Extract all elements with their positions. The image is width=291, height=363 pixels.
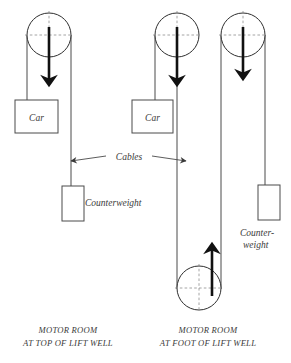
lift-traction-diagram: Car Counterweight Cables: [0, 0, 291, 363]
captions-group: MOTOR ROOM AT TOP OF LIFT WELL MOTOR ROO…: [22, 325, 256, 348]
right-counterweight-label-line1: Counter-: [240, 228, 274, 238]
cables-left-leader-arrow-icon: [71, 156, 106, 161]
right-counterweight-box: [258, 185, 280, 220]
cables-right-leader-arrow-icon: [152, 156, 186, 161]
left-caption-line2: AT TOP OF LIFT WELL: [22, 338, 113, 348]
left-diagram-group: Car Counterweight: [15, 11, 142, 221]
left-counterweight-box: [62, 186, 84, 221]
right-caption-line2: AT FOOT OF LIFT WELL: [159, 338, 256, 348]
cables-label: Cables: [116, 152, 143, 162]
left-caption-line1: MOTOR ROOM: [38, 325, 99, 335]
right-car-label: Car: [145, 113, 160, 123]
left-counterweight-label: Counterweight: [85, 198, 142, 208]
right-diagram-group: Car Counter- weight: [132, 11, 280, 312]
right-counterweight-label-line2: weight: [243, 240, 269, 250]
right-caption-line1: MOTOR ROOM: [178, 325, 239, 335]
left-car-label: Car: [29, 113, 44, 123]
diagram-canvas: Car Counterweight Cables: [0, 0, 291, 363]
cables-annotation: Cables: [71, 152, 186, 162]
